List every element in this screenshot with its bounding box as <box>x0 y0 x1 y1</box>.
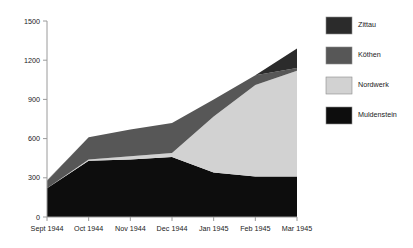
x-tick-label: Mar 1945 <box>282 224 312 233</box>
y-axis-ticks: 030060090012001500 <box>24 17 47 222</box>
chart-svg: 030060090012001500 Sept 1944Oct 1944Nov … <box>0 0 413 248</box>
y-tick-label: 300 <box>28 173 40 182</box>
legend-swatch <box>326 107 352 124</box>
legend-label: Muldenstein <box>358 110 397 119</box>
legend-item-nordwerk[interactable]: Nordwerk <box>326 77 389 94</box>
x-tick-label: Sept 1944 <box>31 224 64 233</box>
y-tick-label: 1500 <box>24 17 40 26</box>
x-tick-label: Dec 1944 <box>157 224 188 233</box>
x-tick-label: Feb 1945 <box>240 224 270 233</box>
chart-legend: ZittauKöthenNordwerkMuldenstein <box>326 17 397 124</box>
y-tick-label: 600 <box>28 134 40 143</box>
y-tick-label: 900 <box>28 95 40 104</box>
x-tick-label: Oct 1944 <box>74 224 103 233</box>
y-tick-label: 1200 <box>24 56 40 65</box>
legend-label: Zittau <box>358 20 376 29</box>
legend-label: Nordwerk <box>358 80 389 89</box>
legend-swatch <box>326 17 352 34</box>
legend-item-zittau[interactable]: Zittau <box>326 17 376 34</box>
y-tick-label: 0 <box>36 213 40 222</box>
x-axis-ticks: Sept 1944Oct 1944Nov 1944Dec 1944Jan 194… <box>31 217 313 233</box>
x-tick-label: Nov 1944 <box>115 224 146 233</box>
legend-item-muldenstein[interactable]: Muldenstein <box>326 107 397 124</box>
legend-label: Köthen <box>358 50 381 59</box>
stacked-area-chart: 030060090012001500 Sept 1944Oct 1944Nov … <box>0 0 413 248</box>
legend-item-k-then[interactable]: Köthen <box>326 47 381 64</box>
legend-swatch <box>326 77 352 94</box>
x-tick-label: Jan 1945 <box>199 224 229 233</box>
legend-swatch <box>326 47 352 64</box>
